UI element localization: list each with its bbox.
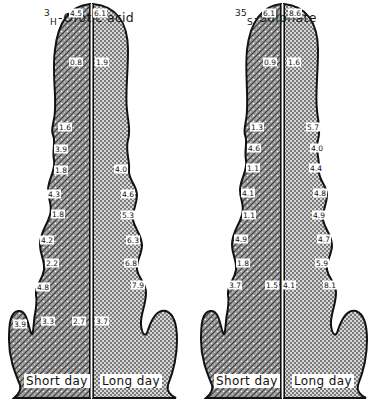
- orotic-long-day-value: 6.8: [124, 259, 138, 268]
- sulphate-long-day-value: 8.1: [323, 281, 337, 290]
- isotope-element: S: [247, 17, 253, 27]
- orotic-long-day-value: 4.6: [121, 190, 135, 199]
- sulphate-short-day-value: 1.5: [265, 281, 279, 290]
- sulphate-short-day-value: 6.1: [262, 9, 276, 18]
- isotope-element: H: [50, 17, 57, 27]
- sulphate-long-day-value: 5.7: [306, 123, 320, 132]
- sulphate-short-day-value: 3.7: [228, 281, 242, 290]
- sulphate-long-day-value: 4.9: [312, 211, 326, 220]
- orotic-acid-apex: [9, 4, 177, 398]
- orotic-short-day-label: Short day: [24, 374, 90, 388]
- orotic-short-day-value: 3.3: [41, 317, 55, 326]
- orotic-short-day-value: 1.6: [58, 123, 72, 132]
- orotic-short-day-value: 4.5: [69, 9, 83, 18]
- orotic-long-day-value: 7.9: [131, 281, 145, 290]
- orotic-long-day-value: 3.7: [95, 317, 109, 326]
- sulphate-long-day-value: 1.6: [287, 58, 301, 67]
- sulphate-short-day-value: 4.9: [234, 235, 248, 244]
- sulphate-short-day-value: 4.1: [241, 189, 255, 198]
- orotic-long-day-value: 6.1: [93, 9, 107, 18]
- sulphate-long-day-value: 4.0: [310, 144, 324, 153]
- sulphate-short-day-value: 1.1: [246, 164, 260, 173]
- orotic-short-day-value: 4.8: [36, 283, 50, 292]
- orotic-long-day-value: 4.0: [114, 165, 128, 174]
- shoot-apex-diagrams: [0, 0, 379, 399]
- sulphate-short-day-value: 1.1: [242, 211, 256, 220]
- sulphate-long-day-value: 5.9: [315, 259, 329, 268]
- sulphate-short-day-label: Short day: [214, 374, 280, 388]
- sulphate-long-day-value: 4.4: [309, 164, 323, 173]
- orotic-short-day-value: 2.2: [45, 259, 59, 268]
- sulphate-short-day-value: 1.8: [236, 259, 250, 268]
- orotic-short-day-value: 1.8: [51, 210, 65, 219]
- orotic-short-day-value: 0.8: [69, 58, 83, 67]
- orotic-short-day-value: 4.3: [47, 190, 61, 199]
- orotic-short-day-value: 3.9: [54, 145, 68, 154]
- orotic-acid-title: 3H-Orotic acid: [44, 8, 134, 27]
- orotic-long-day-value: 1.9: [95, 58, 109, 67]
- sulphate-short-day-value: 0.9: [263, 58, 277, 67]
- orotic-long-day-value: 6.3: [126, 236, 140, 245]
- sulphate-short-day-value: 4.6: [247, 144, 261, 153]
- orotic-long-day-label: Long day: [100, 374, 162, 388]
- sulphate-long-day-label: Long day: [292, 374, 354, 388]
- isotope-mass: 35: [235, 8, 247, 18]
- orotic-short-day-value: 1.8: [54, 166, 68, 175]
- sulphate-long-day-value: 8.6: [288, 9, 302, 18]
- orotic-short-day-value: 3.9: [13, 320, 27, 329]
- sulphate-long-day-value: 4.1: [282, 281, 296, 290]
- orotic-short-day-value: 2.7: [72, 317, 86, 326]
- orotic-long-day-value: 5.3: [121, 211, 135, 220]
- orotic-short-day-value: 4.2: [40, 236, 54, 245]
- sulphate-long-day-value: 4.8: [313, 189, 327, 198]
- sulphate-short-day-value: 1.3: [250, 123, 264, 132]
- sulphate-apex: [201, 4, 367, 398]
- sulphate-long-day-value: 4.7: [317, 235, 331, 244]
